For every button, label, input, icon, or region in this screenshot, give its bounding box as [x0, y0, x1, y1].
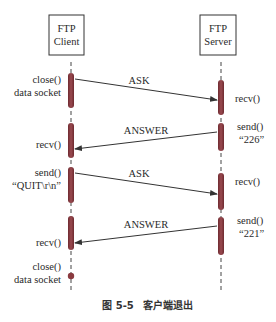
participant-server-line2: Server — [204, 36, 232, 47]
client-activation-1 — [68, 73, 74, 108]
message-answer-2-label: ANSWER — [124, 219, 168, 230]
server-activation-4 — [218, 217, 224, 255]
participant-client-line2: Client — [54, 36, 80, 47]
server-note-2-line1: send() — [237, 121, 264, 133]
server-activation-2 — [218, 123, 224, 151]
client-note-3-line2: “QUIT\r\n” — [12, 180, 61, 191]
server-note-3-line1: recv() — [235, 176, 261, 188]
client-note-2-line1: recv() — [36, 139, 62, 151]
message-ask-2-label: ASK — [128, 168, 149, 179]
caption-title: 客户端退出 — [142, 299, 193, 311]
server-activation-3 — [218, 173, 224, 210]
server-note-1-line1: recv() — [235, 93, 261, 105]
server-note-4-line2: “221” — [239, 228, 264, 239]
client-activation-3 — [68, 167, 74, 203]
server-note-2-line2: “226” — [239, 134, 264, 145]
participant-server: FTP Server — [200, 15, 236, 55]
client-activation-4 — [68, 216, 74, 250]
participant-client-line1: FTP — [57, 23, 75, 34]
server-note-4-line1: send() — [237, 215, 264, 227]
participant-server-line1: FTP — [209, 23, 227, 34]
client-note-5-line1: close() — [32, 261, 61, 273]
client-activation-2 — [68, 123, 74, 158]
client-note-1-line1: close() — [32, 74, 61, 86]
message-ask-1: ASK — [75, 75, 217, 100]
client-note-1-line2: data socket — [14, 87, 61, 98]
client-note-3-line1: send() — [35, 167, 62, 179]
message-answer-1-label: ANSWER — [124, 125, 168, 136]
client-note-5-line2: data socket — [14, 274, 61, 285]
caption-figure-number: 图 5-5 — [102, 300, 134, 311]
sequence-diagram: FTP Client FTP Server ASK ANSWER ASK ANS… — [0, 0, 276, 322]
message-ask-1-label: ASK — [128, 75, 149, 86]
message-answer-1: ANSWER — [75, 125, 217, 149]
participant-client: FTP Client — [49, 15, 84, 55]
server-activation-1 — [218, 80, 224, 115]
client-close-dot — [68, 273, 74, 279]
figure-caption: 图 5-5 客户端退出 — [102, 299, 193, 311]
message-answer-2: ANSWER — [75, 219, 217, 243]
client-note-4-line1: recv() — [36, 237, 62, 249]
message-ask-2: ASK — [75, 168, 217, 194]
